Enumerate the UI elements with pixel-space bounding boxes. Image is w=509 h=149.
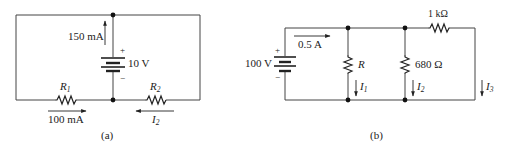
- node-b-680-bottom: [403, 98, 408, 103]
- resistor-r2-icon: [145, 96, 166, 104]
- battery-a-icon: [101, 58, 125, 71]
- source-current-b: 0.5 A: [298, 38, 322, 50]
- circuit-a: + − 10 V 150 mA R1 100 mA R2 I2 (a): [16, 13, 200, 142]
- r680-label: 680 Ω: [415, 58, 442, 70]
- r-label: R: [357, 58, 365, 70]
- r1-label: R1: [59, 80, 70, 94]
- i1-label: I1: [359, 80, 367, 94]
- caption-b: (b): [370, 129, 383, 142]
- battery-a-voltage: 10 V: [128, 57, 150, 69]
- i3-label: I3: [485, 80, 494, 94]
- node-b-r-top: [346, 26, 351, 31]
- r1k-label: 1 kΩ: [428, 8, 448, 19]
- circuit-diagrams: + − 10 V 150 mA R1 100 mA R2 I2 (a): [0, 0, 509, 149]
- node-a-top: [111, 13, 116, 18]
- battery-a-plus: +: [120, 45, 125, 55]
- r2-label: R2: [149, 80, 161, 94]
- resistor-680-icon: [401, 55, 409, 74]
- node-b-r-bottom: [346, 98, 351, 103]
- battery-b-plus: +: [275, 45, 280, 55]
- resistor-r1-icon: [55, 96, 77, 104]
- battery-a-minus: −: [120, 73, 125, 83]
- r2-current: I2: [151, 113, 160, 127]
- caption-a: (a): [101, 129, 114, 142]
- resistor-1k-icon: [428, 24, 450, 32]
- resistor-r-icon: [344, 55, 352, 74]
- node-b-680-top: [403, 26, 408, 31]
- source-current-a: 150 mA: [68, 30, 104, 42]
- i2-label: I2: [416, 80, 425, 94]
- r1-current: 100 mA: [48, 113, 84, 125]
- battery-b-minus: −: [275, 72, 280, 82]
- battery-b-voltage: 100 V: [245, 57, 272, 69]
- node-a-bottom: [111, 98, 116, 103]
- battery-b-icon: [274, 57, 296, 71]
- circuit-b: + − 100 V 0.5 A R I1 680 Ω I2 1 kΩ I3: [245, 8, 494, 142]
